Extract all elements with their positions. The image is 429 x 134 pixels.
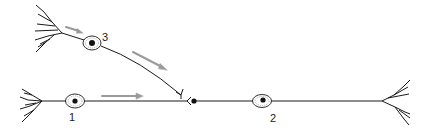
neuron-2 xyxy=(196,80,410,125)
arrow-icon xyxy=(133,52,167,70)
synapse-dot xyxy=(191,98,196,103)
neuron-1-label: 1 xyxy=(69,112,75,123)
neuron-3-nucleus xyxy=(89,40,95,46)
neuron-2-label: 2 xyxy=(270,113,276,124)
neuron-3-label: 3 xyxy=(102,32,108,43)
direction-arrows xyxy=(66,27,167,99)
neuron-3-terminal xyxy=(176,89,183,99)
neuron-3-dendrites xyxy=(35,5,62,52)
neuron-2-nucleus xyxy=(260,97,265,102)
arrow-icon xyxy=(102,93,143,99)
neuron-2-axon-terminals xyxy=(382,80,410,125)
neuron-1 xyxy=(20,89,191,122)
neuron-1-terminal xyxy=(187,97,191,105)
arrow-icon xyxy=(66,27,83,33)
neuron-3 xyxy=(35,5,183,99)
neuron-1-dendrites xyxy=(20,89,42,122)
neuron-3-axon xyxy=(101,46,181,95)
neuron-1-nucleus xyxy=(72,98,77,103)
neuron-circuit-diagram xyxy=(0,0,429,134)
